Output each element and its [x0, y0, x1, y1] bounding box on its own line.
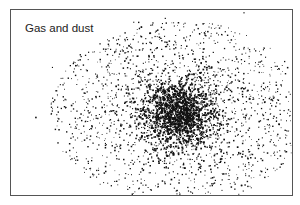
figure-label: Gas and dust: [25, 22, 93, 34]
